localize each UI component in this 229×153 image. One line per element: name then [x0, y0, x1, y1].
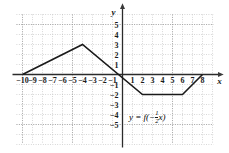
y-tick-label: −5 [110, 121, 119, 130]
y-tick-label: 1 [115, 61, 119, 70]
x-tick-label: −2 [98, 76, 107, 85]
x-tick-label: −4 [78, 76, 87, 85]
x-axis-label: x [216, 76, 222, 86]
x-tick-label: −10 [16, 76, 29, 85]
y-tick-label: 3 [115, 41, 119, 50]
y-axis-label: y [111, 7, 117, 17]
x-tick-label: −9 [28, 76, 37, 85]
x-tick-label: −8 [38, 76, 47, 85]
x-tick-label: −5 [68, 76, 77, 85]
x-tick-label: 4 [161, 76, 165, 85]
y-tick-label: −3 [110, 101, 119, 110]
x-tick-label: 8 [201, 76, 205, 85]
y-tick-label: 2 [115, 51, 119, 60]
x-tick-label: 1 [131, 76, 135, 85]
y-tick-label: 4 [115, 31, 119, 40]
x-tick-label: −6 [58, 76, 67, 85]
y-tick-label: −1 [110, 81, 119, 90]
coordinate-plane: yx −10−9−8−7−6−5−4−3−2−11234567854321−1−… [0, 0, 229, 153]
y-tick-label: 5 [115, 21, 119, 30]
x-tick-label: 2 [141, 76, 145, 85]
graph-figure: yx −10−9−8−7−6−5−4−3−2−11234567854321−1−… [0, 0, 229, 153]
y-tick-label: −4 [110, 111, 119, 120]
x-tick-label: 3 [151, 76, 155, 85]
y-tick-label: −2 [110, 91, 119, 100]
x-tick-label: 5 [171, 76, 175, 85]
x-tick-label: −3 [88, 76, 97, 85]
x-tick-label: −7 [48, 76, 57, 85]
x-tick-label: 6 [181, 76, 185, 85]
